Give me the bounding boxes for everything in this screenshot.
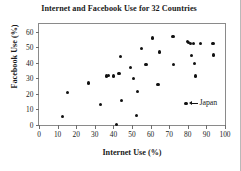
data-point <box>99 103 102 106</box>
x-tick <box>58 125 59 129</box>
x-tick-label: 0 <box>37 130 41 139</box>
annotation-japan: Japan <box>189 99 217 107</box>
data-point <box>194 74 197 77</box>
y-tick-label: 20 <box>26 89 33 98</box>
data-point <box>132 77 135 80</box>
x-tick-label: 50 <box>128 130 135 139</box>
data-point <box>199 42 202 45</box>
x-tick <box>95 125 96 129</box>
x-tick <box>169 125 170 129</box>
data-point <box>135 114 138 117</box>
data-point <box>115 123 118 126</box>
data-point <box>119 55 122 58</box>
annotation-label: Japan <box>199 99 217 107</box>
x-tick-label: 80 <box>184 130 191 139</box>
plot-area: 0102030405060 0102030405060708090100 Jap… <box>38 23 226 126</box>
x-tick-label: 90 <box>203 130 210 139</box>
data-point <box>120 99 123 102</box>
x-tick <box>188 125 189 129</box>
data-point <box>107 74 110 77</box>
x-tick-label: 20 <box>72 130 79 139</box>
left-arrow-icon <box>189 100 198 106</box>
x-tick-label: 30 <box>91 130 98 139</box>
data-point <box>112 74 115 77</box>
x-tick <box>132 125 133 129</box>
x-axis-label: Internet Use (%) <box>38 148 226 157</box>
data-point <box>156 83 159 86</box>
y-axis-label: Facebook Use (%) <box>10 7 19 107</box>
y-tick-label: 60 <box>26 27 33 36</box>
data-point <box>212 53 215 56</box>
chart-title: Internet and Facebook Use for 32 Countri… <box>0 4 238 14</box>
data-point <box>144 63 147 66</box>
x-tick <box>206 125 207 129</box>
data-point <box>117 72 120 75</box>
x-tick <box>113 125 114 129</box>
data-point <box>172 63 175 66</box>
data-point <box>66 91 69 94</box>
x-tick-label: 70 <box>165 130 172 139</box>
data-point <box>129 66 132 69</box>
y-tick-label: 40 <box>26 58 33 67</box>
x-tick-label: 40 <box>110 130 117 139</box>
data-point <box>136 90 139 93</box>
x-tick-label: 100 <box>219 130 230 139</box>
data-point <box>211 42 214 45</box>
x-tick <box>39 125 40 129</box>
data-point <box>192 42 195 45</box>
data-point <box>61 115 64 118</box>
data-point <box>190 54 193 57</box>
data-point <box>87 81 90 84</box>
x-tick-label: 10 <box>54 130 61 139</box>
data-point <box>140 47 143 50</box>
x-tick <box>225 125 226 129</box>
y-tick-label: 50 <box>26 43 33 52</box>
x-tick-label: 60 <box>147 130 154 139</box>
data-point <box>151 36 154 39</box>
x-tick <box>151 125 152 129</box>
y-tick-label: 10 <box>26 105 33 114</box>
data-point <box>184 102 187 105</box>
x-tick <box>76 125 77 129</box>
y-tick-label: 30 <box>26 74 33 83</box>
data-point <box>171 35 174 38</box>
data-point <box>158 50 161 53</box>
scatter-plot-figure: Internet and Facebook Use for 32 Countri… <box>0 0 241 171</box>
data-point <box>193 62 196 65</box>
data-points-layer <box>39 24 225 125</box>
y-tick-label: 0 <box>30 121 34 130</box>
